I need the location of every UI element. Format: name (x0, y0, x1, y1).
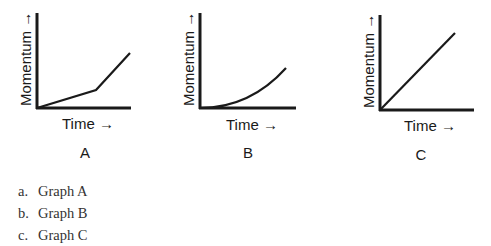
graph-c: Momentum → Time → C (360, 14, 474, 163)
graph-c-y-label: Momentum → (360, 14, 377, 108)
graph-b-x-label: Time → (226, 116, 278, 133)
graph-a: Momentum → Time → A (17, 12, 131, 161)
option-a-text: Graph A (38, 180, 88, 202)
graph-a-letter: A (80, 144, 90, 161)
option-b-text: Graph B (38, 202, 88, 224)
option-a[interactable]: a. Graph A (18, 180, 88, 202)
graph-c-curve (380, 33, 455, 110)
option-b[interactable]: b. Graph B (18, 202, 88, 224)
graph-b-y-label: Momentum → (180, 12, 197, 106)
graph-a-x-label: Time → (62, 115, 114, 132)
graph-c-letter: C (416, 146, 427, 163)
option-b-letter: b. (18, 202, 38, 224)
graph-b: Momentum → Time → B (180, 12, 296, 161)
option-a-letter: a. (18, 180, 38, 202)
option-c[interactable]: c. Graph C (18, 224, 88, 246)
graph-a-curve (37, 53, 130, 108)
answer-options: a. Graph A b. Graph B c. Graph C (18, 180, 88, 246)
graph-c-x-label: Time → (404, 117, 456, 134)
option-c-text: Graph C (38, 224, 88, 246)
graphs-figure: Momentum → Time → A Momentum → Time → B … (0, 0, 491, 175)
graph-b-letter: B (243, 144, 253, 161)
graph-b-curve (200, 68, 286, 108)
option-c-letter: c. (18, 224, 38, 246)
graph-a-y-label: Momentum → (17, 12, 34, 106)
